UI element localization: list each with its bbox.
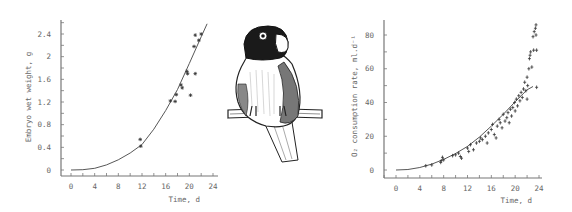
x-tick-label: 0 [69, 182, 74, 191]
data-point [490, 128, 493, 132]
x-tick-label: 4 [92, 182, 97, 191]
left-x-axis-label: Time, d [168, 195, 200, 204]
data-point [495, 136, 498, 140]
y-tick-label: 60 [365, 64, 375, 73]
data-point [532, 35, 535, 39]
data-point [169, 99, 173, 103]
data-point [526, 97, 529, 101]
y-tick-label: 2 [46, 52, 51, 61]
data-point [197, 38, 201, 42]
data-point [484, 134, 487, 138]
o2-consumption-chart: 02040608004812162024 O₂ consumption rate… [325, 0, 572, 212]
x-tick-label: 8 [116, 182, 121, 191]
data-point [523, 80, 526, 84]
data-point [467, 150, 470, 154]
data-point [505, 116, 508, 120]
x-tick-label: 24 [534, 184, 544, 193]
right-fitted-curve [396, 87, 533, 171]
data-point [535, 33, 538, 37]
data-point [472, 148, 475, 152]
y-tick-label: 0 [46, 166, 51, 175]
data-point [478, 140, 481, 144]
data-point [518, 99, 521, 103]
x-tick-label: 24 [208, 182, 218, 191]
data-point [510, 114, 513, 118]
data-point [534, 26, 537, 30]
data-point [486, 141, 489, 145]
x-tick-label: 4 [418, 184, 423, 193]
data-point [526, 84, 529, 88]
left-fitted-curve [71, 24, 207, 170]
data-point [199, 32, 203, 36]
data-point [499, 121, 502, 125]
left-y-axis-label: Embryo wet weight, g [24, 52, 33, 142]
left-data-points [138, 32, 203, 148]
x-tick-label: 16 [487, 184, 497, 193]
data-point [139, 144, 143, 148]
y-tick-label: 0.8 [37, 120, 51, 129]
x-tick-label: 20 [511, 184, 521, 193]
data-point [527, 67, 530, 71]
y-tick-label: 80 [365, 31, 375, 40]
data-point [520, 91, 523, 95]
data-point [186, 72, 190, 76]
data-point [180, 86, 184, 90]
data-point [507, 111, 510, 115]
data-point [535, 23, 538, 27]
left-axes: 00.40.81.21.622.404812162024 [37, 20, 218, 191]
data-point [504, 119, 507, 123]
data-point [138, 138, 142, 142]
data-point [529, 53, 532, 57]
y-tick-label: 40 [365, 98, 375, 107]
data-point [511, 106, 514, 110]
x-tick-label: 0 [394, 184, 399, 193]
x-tick-label: 12 [137, 182, 146, 191]
embryo-weight-chart: 00.40.81.21.622.404812162024 Embryo wet … [0, 0, 225, 212]
data-point [515, 97, 518, 101]
right-x-axis-label: Time, d [500, 196, 532, 205]
data-point [493, 133, 496, 137]
data-point [529, 50, 532, 54]
data-point [189, 93, 193, 97]
y-tick-label: 20 [365, 132, 375, 141]
data-point [514, 109, 517, 113]
right-y-axis-label: O₂ consumption rate, ml.d⁻¹ [350, 35, 359, 157]
data-point [424, 164, 427, 168]
data-point [533, 30, 536, 34]
lovebird-illustration [222, 22, 326, 170]
data-point [530, 65, 533, 69]
right-axes: 02040608004812162024 [365, 20, 544, 193]
x-tick-label: 16 [161, 182, 171, 191]
data-point [501, 126, 504, 130]
data-point [522, 87, 525, 91]
x-tick-label: 12 [463, 184, 472, 193]
y-tick-label: 1.2 [37, 98, 51, 107]
y-tick-label: 2.4 [37, 30, 51, 39]
y-tick-label: 0.4 [37, 143, 51, 152]
data-point [475, 141, 478, 145]
data-point [535, 86, 538, 90]
data-point [516, 104, 519, 108]
data-point [526, 75, 529, 79]
data-point [175, 93, 179, 97]
data-point [532, 48, 535, 52]
data-point [193, 72, 197, 76]
data-point [535, 48, 538, 52]
y-tick-label: 1.6 [37, 75, 51, 84]
data-point [487, 131, 490, 135]
y-tick-label: 0 [369, 166, 374, 175]
data-point [481, 138, 484, 142]
data-point [192, 45, 196, 49]
data-point [193, 33, 197, 37]
data-point [498, 118, 501, 122]
data-point [508, 121, 511, 125]
x-tick-label: 20 [185, 182, 195, 191]
data-point [528, 57, 531, 61]
x-tick-label: 8 [441, 184, 446, 193]
data-point [173, 100, 177, 104]
data-point [496, 124, 499, 128]
